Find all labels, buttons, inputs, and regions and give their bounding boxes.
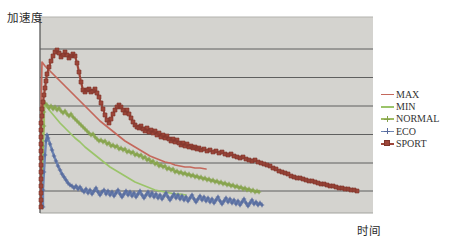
legend-item-eco: ECO	[381, 125, 439, 137]
legend-label-max: MAX	[396, 89, 419, 100]
legend-swatch-sport	[381, 139, 394, 148]
legend-label-min: MIN	[396, 101, 415, 112]
legend-swatch-max	[381, 90, 394, 99]
legend-item-sport: SPORT	[381, 138, 439, 150]
legend-swatch-min	[381, 102, 394, 111]
legend-label-normal: NORMAL	[396, 113, 439, 124]
legend: MAX MIN NORMAL ECO SPORT	[381, 88, 439, 150]
x-axis-label: 时间	[357, 222, 381, 238]
legend-swatch-normal	[381, 114, 394, 123]
legend-item-normal: NORMAL	[381, 113, 439, 125]
y-axis-label: 加速度	[7, 9, 43, 25]
chart-figure: 加速度 时间 MAX MIN NORMAL ECO SPORT	[0, 0, 455, 243]
legend-item-min: MIN	[381, 100, 439, 112]
legend-label-eco: ECO	[396, 126, 416, 137]
legend-label-sport: SPORT	[396, 138, 427, 149]
legend-swatch-eco	[381, 127, 394, 136]
legend-item-max: MAX	[381, 88, 439, 100]
